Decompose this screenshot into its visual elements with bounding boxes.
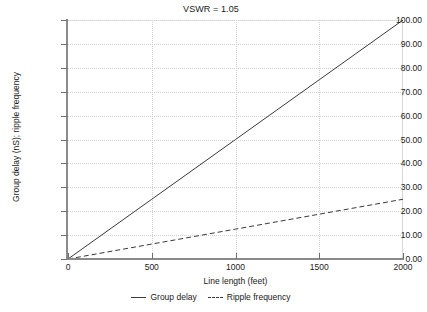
y-axis-tick-label: 90.00 bbox=[370, 39, 422, 49]
series-line bbox=[68, 20, 403, 259]
legend-label: Group delay bbox=[150, 292, 196, 302]
x-axis-tick bbox=[236, 253, 237, 259]
y-axis-tick-label: 10.00 bbox=[370, 230, 422, 240]
y-axis-tick bbox=[61, 187, 67, 188]
x-axis-title: Line length (feet) bbox=[68, 276, 403, 286]
x-axis-tick-label: 1500 bbox=[289, 262, 349, 272]
y-axis-tick bbox=[61, 116, 67, 117]
x-axis-tick-label: 1000 bbox=[206, 262, 266, 272]
legend-entry[interactable]: Group delay bbox=[131, 292, 196, 302]
y-axis-tick bbox=[61, 20, 67, 21]
y-axis-tick bbox=[61, 259, 67, 260]
y-axis-tick-label: 70.00 bbox=[370, 87, 422, 97]
x-axis-tick bbox=[319, 253, 320, 259]
legend-line-swatch-icon bbox=[131, 297, 146, 298]
x-axis-tick-label: 2000 bbox=[373, 262, 427, 272]
y-axis-tick-label: 50.00 bbox=[370, 135, 422, 145]
plot-area bbox=[68, 20, 403, 259]
x-axis-tick-label: 0 bbox=[38, 262, 98, 272]
y-axis-tick-label: 100.00 bbox=[370, 15, 422, 25]
y-axis-tick bbox=[61, 44, 67, 45]
y-axis-tick bbox=[61, 68, 67, 69]
x-axis-tick bbox=[403, 253, 404, 259]
chart-title: VSWR = 1.05 bbox=[0, 4, 422, 14]
series-line bbox=[68, 199, 403, 259]
legend-line-swatch-icon bbox=[208, 297, 223, 298]
data-series-layer bbox=[68, 20, 403, 259]
y-axis-tick-label: 60.00 bbox=[370, 111, 422, 121]
x-axis-tick-label: 500 bbox=[122, 262, 182, 272]
y-axis-tick bbox=[61, 140, 67, 141]
y-axis-tick-label: 20.00 bbox=[370, 206, 422, 216]
y-axis-tick bbox=[61, 235, 67, 236]
y-axis-tick bbox=[61, 92, 67, 93]
x-axis-tick bbox=[152, 253, 153, 259]
y-axis-tick-label: 30.00 bbox=[370, 182, 422, 192]
y-axis-tick-label: 80.00 bbox=[370, 63, 422, 73]
legend-label: Ripple frequency bbox=[227, 292, 291, 302]
y-axis-title: Group delay (nS); ripple frequency bbox=[11, 37, 21, 237]
y-axis-tick bbox=[61, 163, 67, 164]
chart-legend: Group delayRipple frequency bbox=[0, 292, 422, 302]
legend-entry[interactable]: Ripple frequency bbox=[208, 292, 291, 302]
y-axis-tick-label: 40.00 bbox=[370, 158, 422, 168]
y-axis-tick bbox=[61, 211, 67, 212]
x-axis-tick bbox=[68, 253, 69, 259]
